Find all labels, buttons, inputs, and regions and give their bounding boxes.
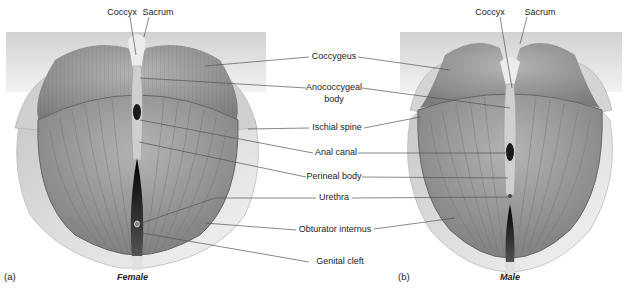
urethra-opening (508, 194, 512, 198)
pelvic-floor-illustration (0, 0, 629, 288)
caption-male: Male (500, 272, 520, 282)
label-anococcygeal-body: body (324, 94, 344, 105)
panel-label-a: (a) (4, 271, 16, 282)
anococcygeal-raphe (504, 84, 516, 195)
label-obturator-internus: Obturator internus (299, 224, 372, 235)
female-pelvic-floor (6, 32, 266, 270)
anal-canal (506, 143, 514, 161)
label-coccyx-female: Coccyx (107, 7, 137, 18)
label-anococcygeal: Anococcygeal (306, 82, 362, 93)
panel-label-b: (b) (398, 271, 410, 282)
label-coccyx-male: Coccyx (475, 7, 505, 18)
urethra-opening (135, 221, 140, 227)
label-ischial-spine: Ischial spine (312, 122, 362, 133)
label-perineal-body: Perineal body (306, 171, 361, 182)
label-genital-cleft: Genital cleft (316, 256, 364, 267)
caption-female: Female (117, 272, 148, 282)
label-sacrum-male: Sacrum (524, 7, 555, 18)
pubic-symphysis (132, 256, 142, 270)
label-anal-canal: Anal canal (315, 147, 357, 158)
label-coccygeus: Coccygeus (312, 51, 357, 62)
label-urethra: Urethra (319, 192, 349, 203)
anal-canal (133, 104, 141, 120)
label-sacrum-female: Sacrum (142, 7, 173, 18)
